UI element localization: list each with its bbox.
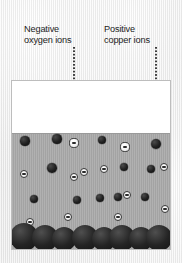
diagram-canvas: Negative oxygen ions Positive copper ion… <box>0 0 182 263</box>
minus-sign-icon <box>162 166 166 167</box>
copper-deposit-blob <box>146 225 171 250</box>
copper-deposit-layer <box>12 219 170 249</box>
electrolysis-container <box>11 80 171 250</box>
label-positive-copper-ions: Positive copper ions <box>104 24 150 46</box>
label-negative-oxygen-ions: Negative oxygen ions <box>24 24 71 46</box>
minus-sign-icon <box>72 142 76 143</box>
minus-sign-icon <box>125 194 129 195</box>
oxygen-ion <box>120 142 129 151</box>
minus-sign-icon <box>163 208 167 209</box>
minus-sign-icon <box>123 146 127 147</box>
minus-sign-icon <box>116 216 120 217</box>
oxygen-ion <box>69 138 78 147</box>
copper-ion <box>52 134 61 143</box>
air-region <box>12 81 170 133</box>
copper-ion <box>20 136 29 145</box>
liquid-surface-line <box>12 133 170 134</box>
minus-sign-icon <box>22 173 26 174</box>
copper-ion <box>47 163 57 173</box>
minus-sign-icon <box>66 216 70 217</box>
minus-sign-icon <box>82 171 86 172</box>
minus-sign-icon <box>72 176 76 177</box>
minus-sign-icon <box>102 168 106 169</box>
